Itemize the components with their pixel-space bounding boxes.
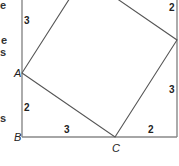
- geometry-diagram: A B C 3 2 3 2 2 3 e e s s: [0, 0, 179, 166]
- cropped-text-fragment: e: [1, 34, 7, 46]
- inner-square: [22, 0, 177, 137]
- segment-label-right-lower: 3: [169, 84, 175, 95]
- cropped-text-fragment: s: [0, 46, 6, 58]
- point-label-c: C: [112, 142, 120, 154]
- point-label-b: B: [14, 131, 21, 143]
- cropped-text-fragment: e: [0, 0, 6, 11]
- segment-label-left-upper: 3: [24, 15, 30, 26]
- segment-label-bottom-left: 3: [64, 124, 70, 135]
- segment-label-bottom-right: 2: [148, 124, 154, 135]
- cropped-text-fragment: s: [0, 112, 6, 124]
- segment-label-left-lower: 2: [24, 102, 30, 113]
- segment-label-right-upper: 2: [169, 2, 175, 13]
- point-label-a: A: [13, 67, 21, 79]
